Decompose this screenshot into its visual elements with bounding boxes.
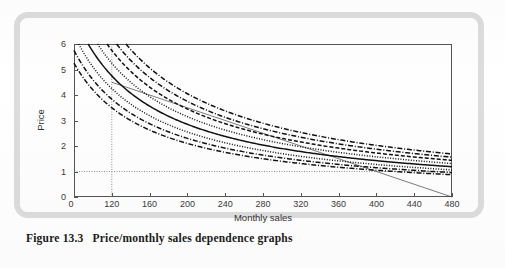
x-tick-label-200: 200 [180, 199, 195, 209]
figure-caption: Figure 13.3Price/monthly sales dependenc… [26, 232, 293, 244]
figure-number: Figure 13.3 [26, 232, 84, 244]
x-tick-label-160: 160 [142, 199, 157, 209]
x-tick-280 [263, 193, 264, 197]
x-axis-title: Monthly sales [234, 212, 292, 223]
figure-caption-text: Price/monthly sales dependence graphs [93, 232, 293, 244]
x-tick-120 [112, 193, 113, 197]
x-tick-label-240: 240 [218, 199, 233, 209]
figure-panel: 120160200240280320360400440480 0123456 0… [14, 12, 484, 218]
y-tick-0 [74, 197, 78, 198]
x-tick-label-480: 480 [444, 199, 459, 209]
y-tick-label-5: 5 [61, 65, 66, 75]
x-tick-label-120: 120 [104, 199, 119, 209]
x-origin-label: 0 [68, 199, 73, 209]
y-tick-3 [74, 121, 78, 122]
x-tick-320 [301, 193, 302, 197]
y-tick-label-4: 4 [61, 90, 66, 100]
y-tick-1 [74, 172, 78, 173]
y-tick-label-1: 1 [61, 167, 66, 177]
x-tick-label-360: 360 [331, 199, 346, 209]
y-tick-6 [74, 44, 78, 45]
x-tick-200 [187, 193, 188, 197]
x-tick-400 [376, 193, 377, 197]
y-tick-5 [74, 70, 78, 71]
y-tick-label-2: 2 [61, 141, 66, 151]
x-tick-160 [150, 193, 151, 197]
series-budget-line [112, 82, 452, 197]
x-tick-360 [339, 193, 340, 197]
y-tick-label-0: 0 [61, 192, 66, 202]
y-tick-label-6: 6 [61, 39, 66, 49]
y-tick-label-3: 3 [61, 116, 66, 126]
x-tick-label-320: 320 [293, 199, 308, 209]
x-tick-440 [414, 193, 415, 197]
series-hyperbola-k-460 [74, 50, 452, 172]
series-hyperbola-k-630 [98, 44, 452, 164]
x-tick-label-440: 440 [407, 199, 422, 209]
chart-plot-area: 120160200240280320360400440480 0123456 0… [74, 44, 452, 197]
figure-root: 120160200240280320360400440480 0123456 0… [0, 0, 505, 268]
figure-panel-inner: 120160200240280320360400440480 0123456 0… [20, 18, 478, 212]
chart-curves [74, 44, 452, 197]
x-tick-480 [452, 193, 453, 197]
series-hyperbola-k-810 [126, 44, 452, 154]
x-tick-label-400: 400 [369, 199, 384, 209]
y-tick-4 [74, 95, 78, 96]
y-axis-title: Price [35, 109, 46, 131]
x-tick-label-280: 280 [255, 199, 270, 209]
y-tick-2 [74, 146, 78, 147]
series-hyperbola-k-420 [74, 63, 452, 175]
x-tick-240 [225, 193, 226, 197]
